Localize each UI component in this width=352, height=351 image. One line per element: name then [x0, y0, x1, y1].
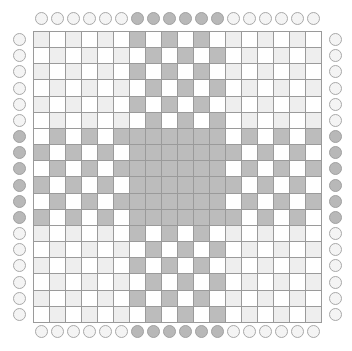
grid-cell[interactable]: [194, 161, 210, 177]
bottom-clue-circle[interactable]: [67, 325, 80, 338]
grid-cell[interactable]: [34, 274, 50, 290]
grid-cell[interactable]: [194, 210, 210, 226]
grid-cell[interactable]: [290, 258, 306, 274]
grid-cell[interactable]: [194, 145, 210, 161]
right-clue-circle[interactable]: [329, 98, 342, 111]
grid-cell[interactable]: [82, 129, 98, 145]
grid-cell[interactable]: [146, 48, 162, 64]
grid-cell[interactable]: [66, 145, 82, 161]
grid-cell[interactable]: [50, 210, 66, 226]
grid-cell[interactable]: [162, 97, 178, 113]
grid-cell[interactable]: [130, 113, 146, 129]
grid-cell[interactable]: [50, 113, 66, 129]
grid-cell[interactable]: [178, 113, 194, 129]
grid-cell[interactable]: [258, 242, 274, 258]
grid-cell[interactable]: [34, 97, 50, 113]
grid-cell[interactable]: [178, 194, 194, 210]
grid-cell[interactable]: [34, 258, 50, 274]
grid-cell[interactable]: [242, 226, 258, 242]
grid-cell[interactable]: [50, 226, 66, 242]
grid-cell[interactable]: [130, 242, 146, 258]
grid-cell[interactable]: [290, 80, 306, 96]
left-clue-circle[interactable]: [13, 162, 26, 175]
grid-cell[interactable]: [114, 129, 130, 145]
grid-cell[interactable]: [50, 242, 66, 258]
grid-cell[interactable]: [242, 129, 258, 145]
left-clue-circle[interactable]: [13, 195, 26, 208]
grid-cell[interactable]: [66, 32, 82, 48]
grid-cell[interactable]: [178, 161, 194, 177]
top-clue-circle[interactable]: [227, 12, 240, 25]
grid-cell[interactable]: [258, 307, 274, 323]
grid-cell[interactable]: [114, 242, 130, 258]
grid-cell[interactable]: [98, 274, 114, 290]
grid-cell[interactable]: [178, 226, 194, 242]
grid-cell[interactable]: [290, 32, 306, 48]
grid-cell[interactable]: [306, 291, 322, 307]
grid-cell[interactable]: [274, 226, 290, 242]
grid-cell[interactable]: [258, 194, 274, 210]
grid-cell[interactable]: [274, 48, 290, 64]
grid-cell[interactable]: [146, 32, 162, 48]
grid-cell[interactable]: [34, 113, 50, 129]
grid-cell[interactable]: [146, 129, 162, 145]
grid-cell[interactable]: [194, 242, 210, 258]
right-clue-circle[interactable]: [329, 179, 342, 192]
grid-cell[interactable]: [178, 291, 194, 307]
top-clue-circle[interactable]: [307, 12, 320, 25]
grid-cell[interactable]: [242, 242, 258, 258]
grid-cell[interactable]: [130, 129, 146, 145]
grid-cell[interactable]: [258, 226, 274, 242]
grid-cell[interactable]: [50, 97, 66, 113]
grid-cell[interactable]: [162, 226, 178, 242]
grid-cell[interactable]: [162, 145, 178, 161]
grid-cell[interactable]: [50, 307, 66, 323]
grid-cell[interactable]: [242, 97, 258, 113]
grid-cell[interactable]: [210, 113, 226, 129]
grid-cell[interactable]: [82, 226, 98, 242]
grid-cell[interactable]: [306, 113, 322, 129]
grid-cell[interactable]: [130, 97, 146, 113]
grid-cell[interactable]: [98, 210, 114, 226]
grid-cell[interactable]: [306, 48, 322, 64]
bottom-clue-circle[interactable]: [259, 325, 272, 338]
grid-cell[interactable]: [82, 48, 98, 64]
right-clue-circle[interactable]: [329, 65, 342, 78]
grid-cell[interactable]: [162, 194, 178, 210]
right-clue-circle[interactable]: [329, 211, 342, 224]
left-clue-circle[interactable]: [13, 227, 26, 240]
grid-cell[interactable]: [146, 307, 162, 323]
grid-cell[interactable]: [210, 64, 226, 80]
top-clue-circle[interactable]: [163, 12, 176, 25]
grid-cell[interactable]: [34, 80, 50, 96]
grid-cell[interactable]: [210, 145, 226, 161]
grid-cell[interactable]: [146, 97, 162, 113]
grid-cell[interactable]: [274, 32, 290, 48]
bottom-clue-circle[interactable]: [131, 325, 144, 338]
grid-cell[interactable]: [162, 129, 178, 145]
right-clue-circle[interactable]: [329, 82, 342, 95]
grid-cell[interactable]: [306, 242, 322, 258]
grid-cell[interactable]: [66, 80, 82, 96]
grid-cell[interactable]: [98, 113, 114, 129]
grid-cell[interactable]: [242, 258, 258, 274]
bottom-clue-circle[interactable]: [83, 325, 96, 338]
grid-cell[interactable]: [290, 210, 306, 226]
grid-cell[interactable]: [162, 161, 178, 177]
top-clue-circle[interactable]: [35, 12, 48, 25]
grid-cell[interactable]: [98, 161, 114, 177]
right-clue-circle[interactable]: [329, 146, 342, 159]
grid-cell[interactable]: [162, 274, 178, 290]
grid-cell[interactable]: [258, 113, 274, 129]
grid-cell[interactable]: [34, 177, 50, 193]
grid-cell[interactable]: [66, 113, 82, 129]
grid-cell[interactable]: [306, 97, 322, 113]
right-clue-circle[interactable]: [329, 114, 342, 127]
grid-cell[interactable]: [258, 258, 274, 274]
grid-cell[interactable]: [98, 32, 114, 48]
grid-cell[interactable]: [178, 258, 194, 274]
grid-cell[interactable]: [226, 80, 242, 96]
grid-cell[interactable]: [178, 32, 194, 48]
top-clue-circle[interactable]: [259, 12, 272, 25]
grid-cell[interactable]: [194, 64, 210, 80]
